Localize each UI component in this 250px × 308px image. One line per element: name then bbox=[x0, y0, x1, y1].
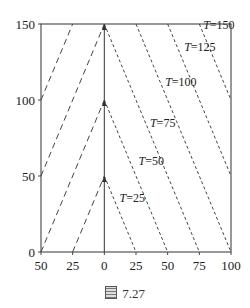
characteristic-line bbox=[104, 24, 199, 252]
curve-label: T=50 bbox=[139, 154, 164, 168]
x-tick-label: 25 bbox=[130, 258, 143, 273]
y-tick-label: 100 bbox=[16, 93, 36, 108]
plot-frame bbox=[41, 24, 231, 252]
chart: 50250255075100050100150T=25T=50T=75T=100… bbox=[0, 0, 250, 308]
characteristic-line bbox=[41, 24, 73, 100]
x-tick-label: 100 bbox=[221, 258, 241, 273]
characteristic-line bbox=[136, 24, 231, 252]
characteristic-line bbox=[41, 100, 104, 252]
x-tick-label: 50 bbox=[161, 258, 174, 273]
characteristic-line bbox=[104, 176, 136, 252]
characteristic-line bbox=[41, 24, 104, 176]
x-tick-label: 75 bbox=[193, 258, 206, 273]
x-tick-label: 50 bbox=[35, 258, 48, 273]
characteristic-line bbox=[73, 176, 105, 252]
arrow-up-icon bbox=[102, 176, 107, 182]
figure-icon bbox=[105, 286, 117, 299]
figure-caption: 7.27 bbox=[0, 286, 250, 302]
characteristic-line bbox=[199, 24, 231, 100]
y-tick-label: 50 bbox=[22, 169, 35, 184]
curve-label: T=125 bbox=[184, 40, 215, 54]
curve-label: T=100 bbox=[165, 75, 196, 89]
curve-label: T=150 bbox=[203, 18, 234, 32]
curve-label: T=75 bbox=[150, 116, 175, 130]
curve-label: T=25 bbox=[120, 191, 145, 205]
caption-text: 7.27 bbox=[122, 286, 145, 301]
x-tick-label: 25 bbox=[66, 258, 79, 273]
y-tick-label: 150 bbox=[16, 17, 36, 32]
y-tick-label: 0 bbox=[29, 245, 36, 260]
x-tick-label: 0 bbox=[101, 258, 108, 273]
